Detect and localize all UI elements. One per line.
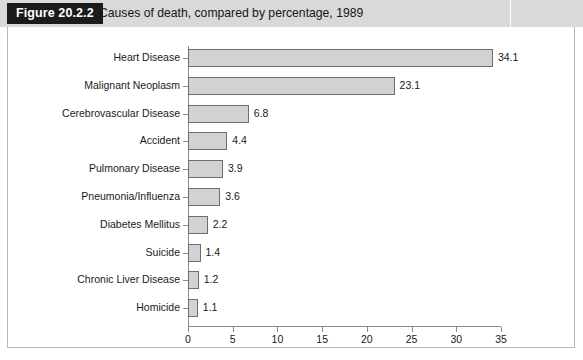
bar <box>188 49 493 67</box>
bar <box>188 132 227 150</box>
x-axis-tick <box>367 327 368 332</box>
x-axis-tick-label: 15 <box>302 333 342 345</box>
category-label: Homicide <box>0 301 180 313</box>
bar <box>188 77 395 95</box>
x-axis-tick-label: 30 <box>436 333 476 345</box>
x-axis-tick <box>412 327 413 332</box>
bar <box>188 299 198 317</box>
bar-value-label: 3.6 <box>225 190 240 202</box>
category-label: Diabetes Mellitus <box>0 218 180 230</box>
bar <box>188 160 223 178</box>
x-axis-tick <box>188 327 189 332</box>
bar-value-label: 3.9 <box>228 162 243 174</box>
category-label: Chronic Liver Disease <box>0 273 180 285</box>
category-label: Heart Disease <box>0 51 180 63</box>
x-axis-tick-label: 35 <box>481 333 521 345</box>
x-axis-tick <box>233 327 234 332</box>
bar <box>188 105 249 123</box>
x-axis-tick <box>277 327 278 332</box>
bar <box>188 244 201 262</box>
category-label: Cerebrovascular Disease <box>0 107 180 119</box>
x-axis-tick <box>456 327 457 332</box>
x-axis-line <box>188 326 501 327</box>
category-label: Suicide <box>0 246 180 258</box>
category-label: Malignant Neoplasm <box>0 79 180 91</box>
bar-value-label: 2.2 <box>213 218 228 230</box>
figure-container: Figure 20.2.2 Causes of death, compared … <box>0 0 583 360</box>
x-axis-tick-label: 10 <box>257 333 297 345</box>
bar-value-label: 1.1 <box>203 301 218 313</box>
x-axis-tick-label: 20 <box>347 333 387 345</box>
bar-value-label: 23.1 <box>400 79 420 91</box>
bar-value-label: 34.1 <box>498 51 518 63</box>
category-label: Accident <box>0 134 180 146</box>
bar-value-label: 4.4 <box>232 134 247 146</box>
bar-value-label: 1.4 <box>206 246 221 258</box>
bar-value-label: 6.8 <box>254 107 269 119</box>
bar <box>188 271 199 289</box>
x-axis-tick-label: 5 <box>213 333 253 345</box>
x-axis-tick <box>322 327 323 332</box>
x-axis-tick-label: 0 <box>168 333 208 345</box>
bar-value-label: 1.2 <box>204 273 219 285</box>
category-label: Pulmonary Disease <box>0 162 180 174</box>
x-axis-tick <box>501 327 502 332</box>
x-axis-tick-label: 25 <box>392 333 432 345</box>
plot-area: 05101520253035 Heart Disease34.1Malignan… <box>0 0 583 360</box>
bar <box>188 188 220 206</box>
category-label: Pneumonia/Influenza <box>0 190 180 202</box>
bar <box>188 216 208 234</box>
